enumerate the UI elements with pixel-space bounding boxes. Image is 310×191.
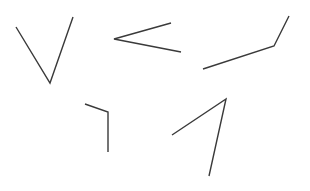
figure-canvas-container [0, 0, 310, 191]
angle-figure-svg [0, 0, 310, 191]
figure-background [0, 0, 310, 191]
